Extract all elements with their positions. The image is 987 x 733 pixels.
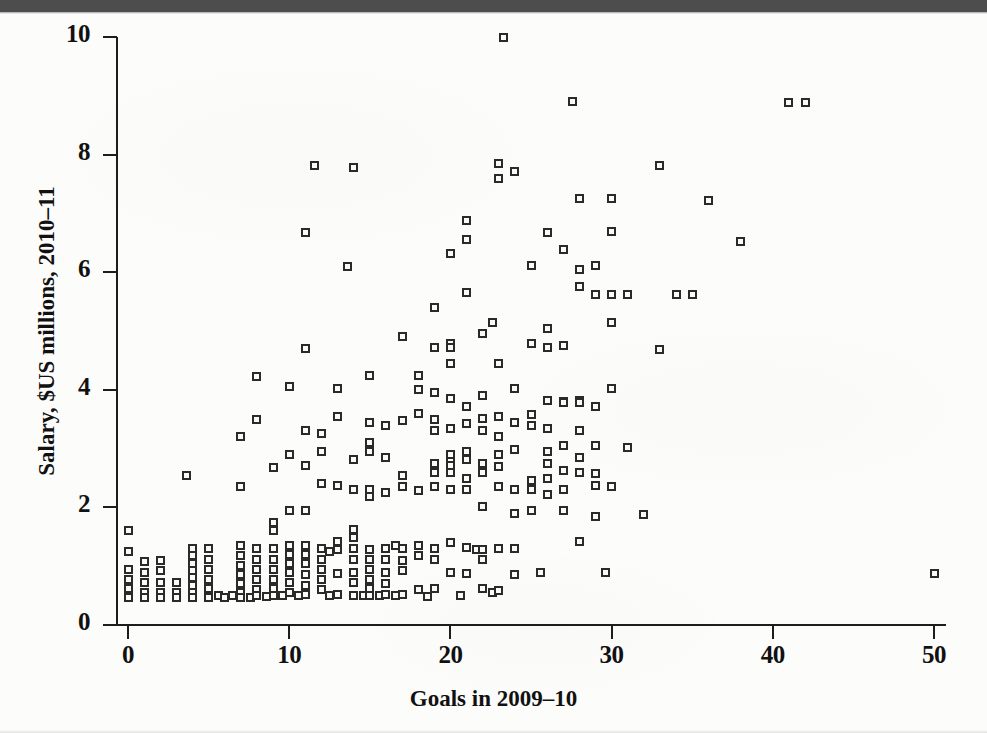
x-axis-line <box>116 624 946 626</box>
data-point <box>285 588 294 597</box>
data-point <box>381 555 390 564</box>
data-point <box>333 481 342 490</box>
data-point <box>156 593 165 602</box>
data-point <box>182 471 191 480</box>
data-point <box>591 441 600 450</box>
data-point <box>381 453 390 462</box>
data-point <box>591 290 600 299</box>
data-point <box>478 414 487 423</box>
data-point <box>301 228 310 237</box>
data-point <box>301 570 310 579</box>
data-point <box>333 569 342 578</box>
data-point <box>575 194 584 203</box>
data-point <box>236 593 245 602</box>
data-point <box>365 545 374 554</box>
data-point <box>623 290 632 299</box>
data-point <box>430 482 439 491</box>
data-point <box>494 174 503 183</box>
data-point <box>423 592 432 601</box>
data-point <box>591 402 600 411</box>
data-point <box>301 426 310 435</box>
data-point <box>575 426 584 435</box>
x-tick-0 <box>127 626 129 639</box>
x-tick-50 <box>933 626 935 639</box>
data-point <box>543 324 552 333</box>
data-point <box>269 544 278 553</box>
data-point <box>575 282 584 291</box>
data-point <box>365 492 374 501</box>
scanned-page: 0246810 01020304050 Salary, $US millions… <box>0 0 987 733</box>
data-point <box>575 453 584 462</box>
data-point <box>236 541 245 550</box>
data-point <box>488 318 497 327</box>
data-point <box>462 419 471 428</box>
data-point <box>301 461 310 470</box>
data-point <box>381 568 390 577</box>
data-point <box>124 526 133 535</box>
scatter-plot: 0246810 01020304050 Salary, $US millions… <box>0 0 987 733</box>
data-point <box>462 288 471 297</box>
y-tick-6 <box>103 271 117 273</box>
data-point <box>381 544 390 553</box>
data-point <box>527 506 536 515</box>
data-point <box>430 426 439 435</box>
data-point <box>349 533 358 542</box>
data-point <box>591 512 600 521</box>
data-point <box>269 463 278 472</box>
data-point <box>510 418 519 427</box>
data-point <box>655 161 664 170</box>
data-point <box>559 466 568 475</box>
data-point <box>494 412 503 421</box>
data-point <box>591 469 600 478</box>
data-point <box>301 550 310 559</box>
data-point <box>172 593 181 602</box>
data-point <box>607 482 616 491</box>
data-point <box>398 566 407 575</box>
data-point <box>478 502 487 511</box>
data-point <box>398 556 407 565</box>
data-point <box>317 447 326 456</box>
x-tick-30 <box>611 626 613 639</box>
data-point <box>269 526 278 535</box>
data-point <box>736 237 745 246</box>
data-point <box>430 468 439 477</box>
data-point <box>236 482 245 491</box>
data-point <box>446 538 455 547</box>
data-point <box>349 568 358 577</box>
data-point <box>494 586 503 595</box>
data-point <box>510 485 519 494</box>
data-point <box>156 556 165 565</box>
data-point <box>414 371 423 380</box>
data-point <box>607 227 616 236</box>
data-point <box>333 412 342 421</box>
data-point <box>252 372 261 381</box>
data-point <box>494 432 503 441</box>
data-point <box>236 579 245 588</box>
data-point <box>365 418 374 427</box>
data-point <box>349 555 358 564</box>
data-point <box>543 474 552 483</box>
data-point <box>317 575 326 584</box>
data-point <box>607 384 616 393</box>
x-tick-label-50: 50 <box>899 641 969 669</box>
data-point <box>285 568 294 577</box>
data-point <box>655 345 664 354</box>
data-point <box>607 290 616 299</box>
data-point <box>430 459 439 468</box>
data-point <box>543 447 552 456</box>
data-point <box>591 261 600 270</box>
data-point <box>494 544 503 553</box>
data-point <box>398 471 407 480</box>
data-point <box>575 265 584 274</box>
data-point <box>462 543 471 552</box>
data-point <box>140 578 149 587</box>
data-point <box>381 421 390 430</box>
data-point <box>536 568 545 577</box>
data-point <box>204 565 213 574</box>
data-point <box>446 424 455 433</box>
data-point <box>349 485 358 494</box>
data-point <box>285 506 294 515</box>
data-point <box>591 481 600 490</box>
data-point <box>478 468 487 477</box>
data-point <box>349 591 358 600</box>
